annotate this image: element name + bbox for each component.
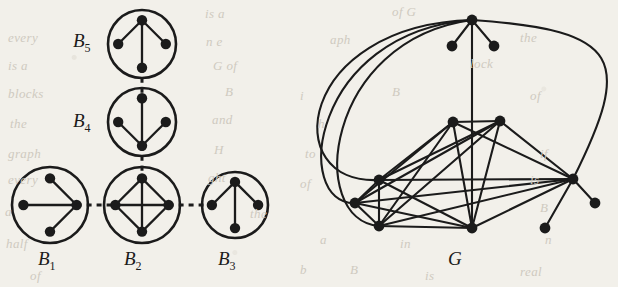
graph-vertex <box>110 200 120 210</box>
graph-vertex <box>45 226 55 236</box>
graph-vertex <box>137 226 147 236</box>
graph-edge <box>379 121 500 180</box>
graph-vertex <box>161 39 171 49</box>
label-B4: B4 <box>73 110 91 136</box>
graph-vertex <box>447 41 458 52</box>
graph-vertex <box>448 117 459 128</box>
graph-vertex <box>161 117 171 127</box>
graph-edge <box>379 179 573 180</box>
graph-vertex <box>230 223 240 233</box>
graph-vertex <box>113 39 123 49</box>
graph-edge <box>50 178 77 205</box>
graph-edge <box>50 205 77 232</box>
label-B5: B5 <box>73 30 91 56</box>
graph-vertex <box>137 15 147 25</box>
graph-vertex <box>374 175 385 186</box>
graph-edge <box>142 205 169 232</box>
graph-edge <box>115 178 142 205</box>
graph-edge <box>453 121 500 122</box>
label-B3: B3 <box>218 248 236 274</box>
graph-vertex <box>374 221 385 232</box>
graph-vertex <box>568 174 579 185</box>
label-B2: B2 <box>124 248 142 274</box>
graph-edge <box>355 121 500 203</box>
graph-vertex <box>253 200 263 210</box>
graph-edge <box>115 205 142 232</box>
graph-vertex <box>230 177 240 187</box>
graph-vertex <box>540 223 551 234</box>
block-decomposition-group <box>12 10 268 243</box>
graph-vertex <box>18 200 28 210</box>
figure-canvas <box>0 0 618 287</box>
graph-edge <box>379 180 472 228</box>
graph-edge <box>379 226 472 228</box>
graph-vertex <box>45 173 55 183</box>
label-B1: B1 <box>38 248 56 274</box>
graph-edge <box>142 178 169 205</box>
graph-vertex <box>467 223 478 234</box>
graph-vertex <box>467 15 478 26</box>
graph-vertex <box>113 117 123 127</box>
graph-vertex <box>350 198 361 209</box>
graph-vertex <box>489 41 500 52</box>
graph-vertex <box>590 198 601 209</box>
graph-vertex <box>495 116 506 127</box>
label-G: G <box>448 248 462 270</box>
graph-g-group <box>317 15 607 234</box>
